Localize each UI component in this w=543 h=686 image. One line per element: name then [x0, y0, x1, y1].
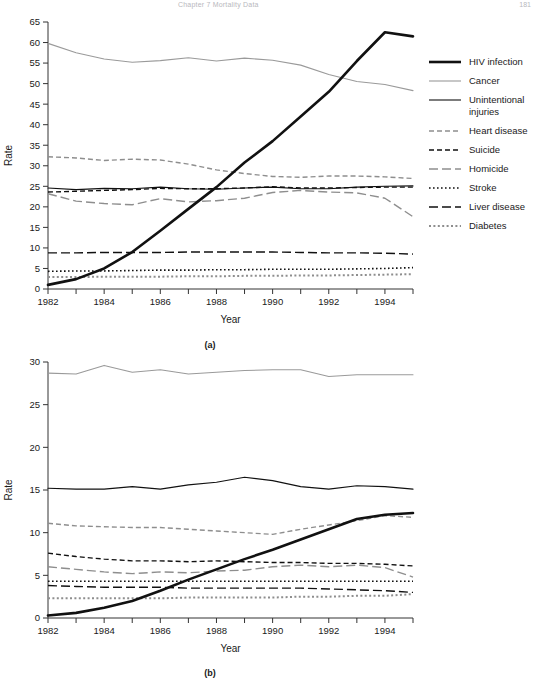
- plot-area-b: 0510152025301982198419861988199019921994…: [0, 352, 425, 664]
- series-line-unintentional-injuries: [48, 477, 413, 489]
- legend-a: HIV infectionCancerUnintentional injurie…: [428, 56, 528, 239]
- svg-text:Rate: Rate: [3, 145, 14, 167]
- svg-text:55: 55: [29, 57, 40, 68]
- svg-text:65: 65: [29, 16, 40, 27]
- legend-item-diabetes[interactable]: Diabetes: [428, 220, 528, 232]
- svg-text:0: 0: [35, 283, 40, 294]
- svg-text:1988: 1988: [206, 625, 227, 636]
- legend-line-swatch-icon: [428, 144, 462, 155]
- svg-text:50: 50: [29, 78, 40, 89]
- legend-line-swatch-icon: [428, 182, 462, 193]
- legend-item-suicide[interactable]: Suicide: [428, 144, 528, 156]
- legend-item-unintentional-injuries[interactable]: Unintentional injuries: [428, 94, 528, 117]
- svg-text:5: 5: [35, 263, 40, 274]
- svg-text:0: 0: [35, 612, 40, 623]
- figure-b: 0510152025301982198419861988199019921994…: [0, 352, 543, 686]
- legend-item-stroke[interactable]: Stroke: [428, 182, 528, 194]
- svg-text:60: 60: [29, 37, 40, 48]
- svg-text:40: 40: [29, 119, 40, 130]
- legend-item-label: Homicide: [469, 163, 509, 175]
- svg-text:1992: 1992: [318, 625, 339, 636]
- svg-text:30: 30: [29, 160, 40, 171]
- series-line-homicide: [48, 190, 413, 216]
- svg-text:5: 5: [35, 570, 40, 581]
- svg-text:Year: Year: [220, 643, 241, 654]
- svg-text:Year: Year: [220, 314, 241, 325]
- svg-text:1994: 1994: [374, 296, 395, 307]
- svg-text:1988: 1988: [206, 296, 227, 307]
- series-line-diabetes: [48, 274, 413, 277]
- chart-a: 0510152025303540455055606519821984198619…: [0, 10, 425, 335]
- legend-item-label: HIV infection: [469, 56, 523, 68]
- svg-text:1990: 1990: [262, 296, 283, 307]
- legend-line-swatch-icon: [428, 201, 462, 212]
- svg-text:1984: 1984: [94, 625, 115, 636]
- svg-text:35: 35: [29, 140, 40, 151]
- series-line-diabetes: [48, 594, 413, 598]
- svg-text:10: 10: [29, 242, 40, 253]
- series-line-cancer: [48, 365, 413, 376]
- svg-text:25: 25: [29, 181, 40, 192]
- svg-text:25: 25: [29, 399, 40, 410]
- legend-line-swatch-icon: [428, 163, 462, 174]
- svg-text:15: 15: [29, 484, 40, 495]
- series-line-unintentional-injuries: [48, 186, 413, 190]
- legend-item-label: Suicide: [469, 144, 500, 156]
- legend-line-swatch-icon: [428, 56, 462, 67]
- svg-text:20: 20: [29, 442, 40, 453]
- svg-text:1994: 1994: [374, 625, 395, 636]
- legend-item-label: Cancer: [469, 75, 500, 87]
- series-line-hiv-infection: [48, 513, 413, 615]
- svg-text:1984: 1984: [94, 296, 115, 307]
- svg-text:Rate: Rate: [3, 479, 14, 501]
- svg-text:15: 15: [29, 222, 40, 233]
- legend-item-label: Unintentional injuries: [469, 94, 524, 117]
- legend-item-homicide[interactable]: Homicide: [428, 163, 528, 175]
- legend-item-heart-disease[interactable]: Heart disease: [428, 125, 528, 137]
- series-line-liver-disease: [48, 252, 413, 254]
- svg-text:1982: 1982: [37, 625, 58, 636]
- series-line-cancer: [48, 43, 413, 90]
- legend-item-label: Diabetes: [469, 220, 507, 232]
- header-page-number: 181: [519, 1, 531, 8]
- chart-b: 0510152025301982198419861988199019921994…: [0, 352, 425, 664]
- svg-text:30: 30: [29, 356, 40, 367]
- series-line-homicide: [48, 565, 413, 577]
- svg-text:1986: 1986: [150, 625, 171, 636]
- legend-item-cancer[interactable]: Cancer: [428, 75, 528, 87]
- figure-b-caption: (b): [0, 668, 420, 678]
- svg-text:1982: 1982: [37, 296, 58, 307]
- legend-item-liver-disease[interactable]: Liver disease: [428, 201, 528, 213]
- plot-area-a: 0510152025303540455055606519821984198619…: [0, 10, 425, 335]
- legend-item-hiv-infection[interactable]: HIV infection: [428, 56, 528, 68]
- svg-text:1992: 1992: [318, 296, 339, 307]
- legend-line-swatch-icon: [428, 75, 462, 86]
- series-line-hiv-infection: [48, 32, 413, 285]
- figure-a-caption: (a): [0, 340, 420, 350]
- legend-line-swatch-icon: [428, 125, 462, 136]
- legend-line-swatch-icon: [428, 220, 462, 231]
- legend-item-label: Stroke: [469, 182, 496, 194]
- svg-text:45: 45: [29, 99, 40, 110]
- svg-text:1986: 1986: [150, 296, 171, 307]
- legend-line-swatch-icon: [428, 94, 462, 105]
- header-title: Chapter 7 Mortality Data: [178, 1, 259, 8]
- legend-item-label: Liver disease: [469, 201, 525, 213]
- figure-a: 0510152025303540455055606519821984198619…: [0, 10, 543, 355]
- svg-text:20: 20: [29, 201, 40, 212]
- svg-text:1990: 1990: [262, 625, 283, 636]
- legend-item-label: Heart disease: [469, 125, 528, 137]
- series-line-liver-disease: [48, 586, 413, 593]
- svg-text:10: 10: [29, 527, 40, 538]
